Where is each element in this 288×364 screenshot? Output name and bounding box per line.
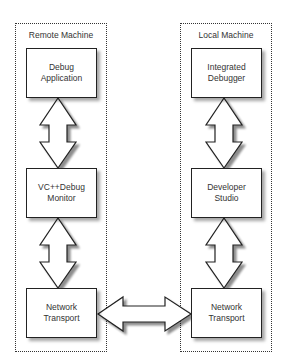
node-label-line1: Debug [41, 62, 83, 73]
node-label-line2: Monitor [38, 193, 85, 204]
node-label-line2: Studio [207, 193, 246, 204]
node-network-transport-remote: Network Transport [26, 288, 97, 338]
arrow-studio-to-network-local [206, 218, 242, 288]
arrow-monitor-to-network-remote [40, 218, 76, 288]
node-developer-studio: Developer Studio [191, 168, 262, 218]
node-label-line2: Debugger [207, 73, 245, 84]
node-label-line1: VC++Debug [38, 182, 85, 193]
arrow-debug-app-to-monitor [40, 98, 76, 168]
arrow-network-remote-to-network-local [98, 297, 191, 331]
node-label-line2: Transport [43, 313, 79, 324]
node-vc-debug-monitor: VC++Debug Monitor [26, 168, 97, 218]
node-label-line2: Application [41, 73, 83, 84]
node-label-line1: Integrated [207, 62, 245, 73]
node-label-line1: Network [43, 302, 79, 313]
node-label-line1: Network [208, 302, 244, 313]
node-debug-application: Debug Application [26, 48, 97, 98]
arrow-debugger-to-studio [206, 98, 242, 168]
node-label-line1: Developer [207, 182, 246, 193]
node-integrated-debugger: Integrated Debugger [191, 48, 262, 98]
node-network-transport-local: Network Transport [191, 288, 262, 338]
node-label-line2: Transport [208, 313, 244, 324]
